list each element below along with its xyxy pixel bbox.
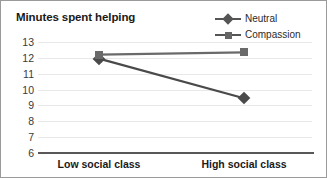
square-marker-icon xyxy=(215,28,241,41)
y-axis-tick-label: 8 xyxy=(4,115,34,127)
y-axis-tick-label: 6 xyxy=(4,147,34,159)
x-axis-tick-label: Low social class xyxy=(58,158,141,170)
series-line-neutral xyxy=(99,59,244,99)
data-point-compassion xyxy=(95,51,103,59)
y-axis-tick-label: 12 xyxy=(4,52,34,64)
series-line-compassion xyxy=(99,52,244,54)
y-axis-tick-labels: 131211109876 xyxy=(3,42,34,153)
data-point-compassion xyxy=(240,48,248,56)
y-axis-tick-label: 9 xyxy=(4,99,34,111)
y-axis-tick-label: 10 xyxy=(4,84,34,96)
legend-label-neutral: Neutral xyxy=(245,13,277,24)
legend-item-neutral: Neutral xyxy=(215,12,301,25)
line-chart-figure: Minutes spent helping Neutral Compassion… xyxy=(0,0,327,178)
x-axis-line xyxy=(38,152,314,154)
legend-label-compassion: Compassion xyxy=(245,29,301,40)
diamond-marker-icon xyxy=(215,12,241,25)
chart-legend: Neutral Compassion xyxy=(215,12,301,41)
y-axis-tick-label: 11 xyxy=(4,68,34,80)
y-axis-tick-label: 7 xyxy=(4,131,34,143)
y-axis-tick-label: 13 xyxy=(4,36,34,48)
series-lines xyxy=(38,42,312,153)
plot-area xyxy=(38,42,312,153)
chart-title: Minutes spent helping xyxy=(16,11,135,23)
x-axis-tick-label: High social class xyxy=(201,158,286,170)
legend-item-compassion: Compassion xyxy=(215,28,301,41)
